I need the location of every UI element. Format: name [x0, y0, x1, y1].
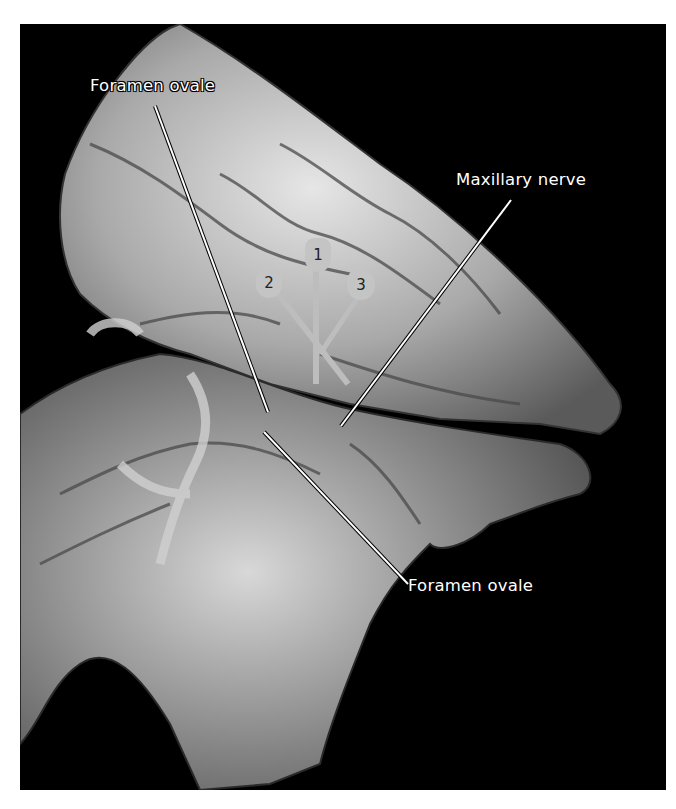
label-foramen-ovale-bottom: Foramen ovale [408, 576, 533, 595]
needle-1-number: 1 [313, 246, 323, 264]
needle-1-head: 1 [305, 238, 331, 272]
ct-render-panel: 1 2 3 Foramen ovale Maxillary nerve Fora… [20, 24, 666, 790]
needle-3-head: 3 [347, 270, 375, 300]
needle-2-number: 2 [264, 274, 274, 292]
needle-3-number: 3 [356, 276, 366, 294]
label-maxillary-nerve: Maxillary nerve [456, 170, 586, 189]
skull-rendering [20, 24, 666, 790]
label-foramen-ovale-top: Foramen ovale [90, 76, 215, 95]
needle-2-head: 2 [256, 268, 282, 298]
